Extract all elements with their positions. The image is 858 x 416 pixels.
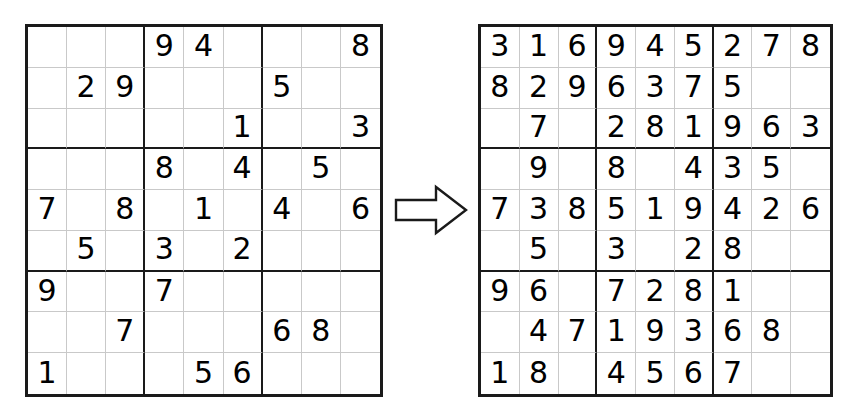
- solution-cell-r5c7[interactable]: 4: [714, 190, 753, 231]
- solution-cell-r7c1[interactable]: 9: [481, 272, 520, 313]
- solution-cell-r2c7[interactable]: 5: [714, 68, 753, 109]
- solution-cell-r2c4[interactable]: 6: [597, 68, 636, 109]
- puzzle-cell-r6c7[interactable]: [263, 231, 302, 272]
- solution-cell-r3c7[interactable]: 9: [714, 109, 753, 150]
- puzzle-cell-r8c2[interactable]: [67, 312, 106, 353]
- solution-cell-r5c6[interactable]: 9: [675, 190, 714, 231]
- solution-cell-r1c3[interactable]: 6: [559, 27, 598, 68]
- puzzle-cell-r1c2[interactable]: [67, 27, 106, 68]
- puzzle-cell-r8c1[interactable]: [28, 312, 67, 353]
- puzzle-cell-r3c4[interactable]: [145, 109, 184, 150]
- puzzle-cell-r1c5[interactable]: 4: [184, 27, 223, 68]
- puzzle-cell-r5c9[interactable]: 6: [341, 190, 380, 231]
- puzzle-cell-r1c1[interactable]: [28, 27, 67, 68]
- puzzle-cell-r2c1[interactable]: [28, 68, 67, 109]
- puzzle-cell-r2c4[interactable]: [145, 68, 184, 109]
- puzzle-cell-r3c3[interactable]: [106, 109, 145, 150]
- puzzle-cell-r2c8[interactable]: [302, 68, 341, 109]
- puzzle-cell-r4c6[interactable]: 4: [224, 149, 263, 190]
- solution-cell-r7c8[interactable]: [752, 272, 791, 313]
- solution-cell-r1c9[interactable]: 8: [791, 27, 830, 68]
- puzzle-cell-r7c8[interactable]: [302, 272, 341, 313]
- solution-cell-r9c3[interactable]: [559, 353, 598, 394]
- puzzle-cell-r2c6[interactable]: [224, 68, 263, 109]
- puzzle-cell-r5c2[interactable]: [67, 190, 106, 231]
- solution-cell-r9c6[interactable]: 6: [675, 353, 714, 394]
- solution-cell-r7c4[interactable]: 7: [597, 272, 636, 313]
- solution-cell-r8c8[interactable]: 8: [752, 312, 791, 353]
- puzzle-cell-r6c2[interactable]: 5: [67, 231, 106, 272]
- puzzle-cell-r8c6[interactable]: [224, 312, 263, 353]
- puzzle-cell-r1c6[interactable]: [224, 27, 263, 68]
- solution-cell-r4c9[interactable]: [791, 149, 830, 190]
- solution-cell-r1c7[interactable]: 2: [714, 27, 753, 68]
- solution-cell-r8c1[interactable]: [481, 312, 520, 353]
- puzzle-cell-r2c5[interactable]: [184, 68, 223, 109]
- puzzle-cell-r5c3[interactable]: 8: [106, 190, 145, 231]
- solution-cell-r7c7[interactable]: 1: [714, 272, 753, 313]
- solution-cell-r1c8[interactable]: 7: [752, 27, 791, 68]
- solution-cell-r1c5[interactable]: 4: [636, 27, 675, 68]
- solution-cell-r9c7[interactable]: 7: [714, 353, 753, 394]
- solution-cell-r5c5[interactable]: 1: [636, 190, 675, 231]
- solution-cell-r3c8[interactable]: 6: [752, 109, 791, 150]
- solution-cell-r7c2[interactable]: 6: [520, 272, 559, 313]
- puzzle-cell-r6c5[interactable]: [184, 231, 223, 272]
- solution-cell-r6c6[interactable]: 2: [675, 231, 714, 272]
- puzzle-cell-r2c2[interactable]: 2: [67, 68, 106, 109]
- solution-cell-r5c3[interactable]: 8: [559, 190, 598, 231]
- puzzle-cell-r1c3[interactable]: [106, 27, 145, 68]
- solution-cell-r4c4[interactable]: 8: [597, 149, 636, 190]
- solution-cell-r1c1[interactable]: 3: [481, 27, 520, 68]
- puzzle-cell-r5c4[interactable]: [145, 190, 184, 231]
- solution-cell-r5c9[interactable]: 6: [791, 190, 830, 231]
- puzzle-cell-r9c7[interactable]: [263, 353, 302, 394]
- solution-cell-r9c9[interactable]: [791, 353, 830, 394]
- solution-cell-r6c5[interactable]: [636, 231, 675, 272]
- puzzle-cell-r1c4[interactable]: 9: [145, 27, 184, 68]
- solution-cell-r8c3[interactable]: 7: [559, 312, 598, 353]
- puzzle-cell-r9c6[interactable]: 6: [224, 353, 263, 394]
- sudoku-puzzle-grid[interactable]: 948295138457814653297768156: [25, 24, 383, 397]
- puzzle-cell-r8c8[interactable]: 8: [302, 312, 341, 353]
- puzzle-cell-r4c3[interactable]: [106, 149, 145, 190]
- puzzle-cell-r6c8[interactable]: [302, 231, 341, 272]
- puzzle-cell-r4c1[interactable]: [28, 149, 67, 190]
- puzzle-cell-r7c4[interactable]: 7: [145, 272, 184, 313]
- puzzle-cell-r1c9[interactable]: 8: [341, 27, 380, 68]
- puzzle-cell-r9c8[interactable]: [302, 353, 341, 394]
- solution-cell-r8c5[interactable]: 9: [636, 312, 675, 353]
- solution-cell-r2c3[interactable]: 9: [559, 68, 598, 109]
- solution-cell-r7c3[interactable]: [559, 272, 598, 313]
- solution-cell-r8c9[interactable]: [791, 312, 830, 353]
- puzzle-cell-r6c4[interactable]: 3: [145, 231, 184, 272]
- solution-cell-r2c6[interactable]: 7: [675, 68, 714, 109]
- puzzle-cell-r5c7[interactable]: 4: [263, 190, 302, 231]
- solution-cell-r6c4[interactable]: 3: [597, 231, 636, 272]
- solution-cell-r5c8[interactable]: 2: [752, 190, 791, 231]
- puzzle-cell-r7c7[interactable]: [263, 272, 302, 313]
- puzzle-cell-r3c2[interactable]: [67, 109, 106, 150]
- puzzle-cell-r5c5[interactable]: 1: [184, 190, 223, 231]
- solution-cell-r4c7[interactable]: 3: [714, 149, 753, 190]
- solution-cell-r7c9[interactable]: [791, 272, 830, 313]
- puzzle-cell-r4c2[interactable]: [67, 149, 106, 190]
- solution-cell-r6c9[interactable]: [791, 231, 830, 272]
- solution-cell-r3c1[interactable]: [481, 109, 520, 150]
- puzzle-cell-r9c9[interactable]: [341, 353, 380, 394]
- solution-cell-r8c4[interactable]: 1: [597, 312, 636, 353]
- solution-cell-r4c8[interactable]: 5: [752, 149, 791, 190]
- solution-cell-r9c4[interactable]: 4: [597, 353, 636, 394]
- puzzle-cell-r6c6[interactable]: 2: [224, 231, 263, 272]
- puzzle-cell-r7c6[interactable]: [224, 272, 263, 313]
- puzzle-cell-r4c4[interactable]: 8: [145, 149, 184, 190]
- puzzle-cell-r2c7[interactable]: 5: [263, 68, 302, 109]
- solution-cell-r6c2[interactable]: 5: [520, 231, 559, 272]
- puzzle-cell-r9c2[interactable]: [67, 353, 106, 394]
- solution-cell-r3c9[interactable]: 3: [791, 109, 830, 150]
- solution-cell-r9c2[interactable]: 8: [520, 353, 559, 394]
- puzzle-cell-r7c5[interactable]: [184, 272, 223, 313]
- solution-cell-r9c5[interactable]: 5: [636, 353, 675, 394]
- solution-cell-r5c4[interactable]: 5: [597, 190, 636, 231]
- puzzle-cell-r9c3[interactable]: [106, 353, 145, 394]
